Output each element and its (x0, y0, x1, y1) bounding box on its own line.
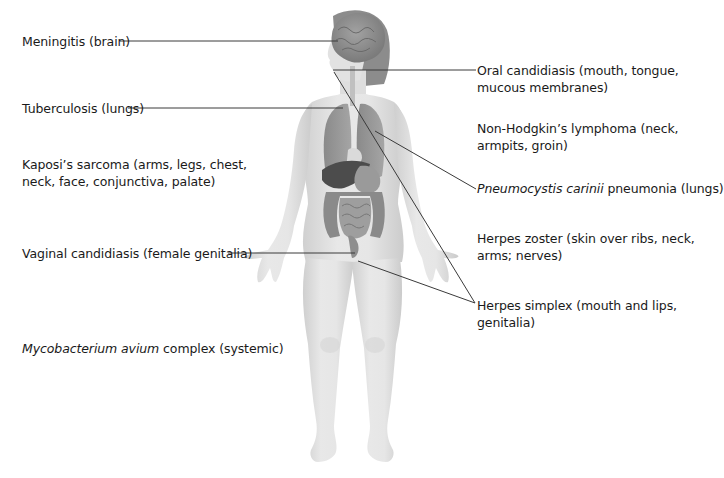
label-tuberculosis: Tuberculosis (lungs) (22, 100, 144, 117)
label-kaposi: Kaposi’s sarcoma (arms, legs, chest, nec… (22, 156, 247, 190)
label-pneumocystis-rest: pneumonia (lungs) (604, 181, 724, 196)
label-zoster-line1: Herpes zoster (skin over ribs, neck, (477, 230, 695, 247)
label-simplex: Herpes simplex (mouth and lips, genitali… (477, 297, 677, 331)
label-nonhodgkin-line1: Non-Hodgkin’s lymphoma (neck, (477, 120, 678, 137)
label-mycobacterium-italic: Mycobacterium avium (22, 341, 159, 356)
label-zoster: Herpes zoster (skin over ribs, neck, arm… (477, 230, 695, 264)
label-oral-line2: mucous membranes) (477, 79, 679, 96)
label-simplex-line1: Herpes simplex (mouth and lips, (477, 297, 677, 314)
label-pneumocystis-italic: Pneumocystis carinii (477, 181, 604, 196)
label-meningitis: Meningitis (brain) (22, 33, 130, 50)
label-mycobacterium-rest: complex (systemic) (159, 341, 283, 356)
label-vaginal: Vaginal candidiasis (female genitalia) (22, 245, 252, 262)
label-nonhodgkin-line2: armpits, groin) (477, 137, 678, 154)
label-kaposi-line2: neck, face, conjunctiva, palate) (22, 173, 247, 190)
leader-pneumocystis (375, 131, 476, 189)
label-pneumocystis: Pneumocystis carinii pneumonia (lungs) (477, 180, 724, 197)
label-oral-line1: Oral candidiasis (mouth, tongue, (477, 62, 679, 79)
label-oral: Oral candidiasis (mouth, tongue, mucous … (477, 62, 679, 96)
label-kaposi-line1: Kaposi’s sarcoma (arms, legs, chest, (22, 156, 247, 173)
label-nonhodgkin: Non-Hodgkin’s lymphoma (neck, armpits, g… (477, 120, 678, 154)
leader-simplex-mouth (334, 72, 475, 303)
label-mycobacterium: Mycobacterium avium complex (systemic) (22, 340, 284, 357)
leader-simplex-genital (358, 261, 475, 303)
label-zoster-line2: arms; nerves) (477, 247, 695, 264)
label-simplex-line2: genitalia) (477, 314, 677, 331)
